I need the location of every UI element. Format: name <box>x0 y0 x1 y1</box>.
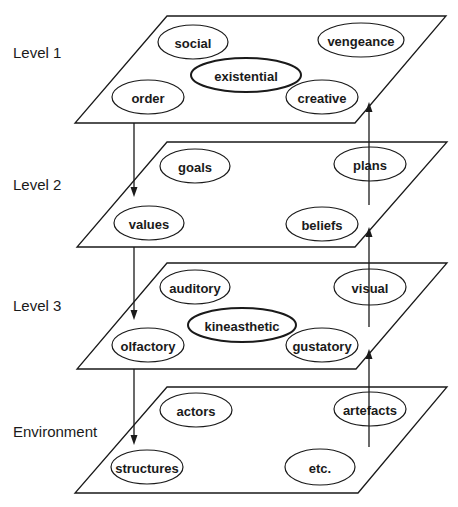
node-label: plans <box>353 158 387 173</box>
node-label: order <box>131 91 164 106</box>
node-label: actors <box>176 404 215 419</box>
node-social: social <box>158 25 228 59</box>
node-label: values <box>129 217 169 232</box>
node-label: goals <box>178 160 212 175</box>
node-existential: existential <box>191 58 301 92</box>
level-label: Level 2 <box>13 176 61 193</box>
node-label: auditory <box>169 281 221 296</box>
node-order: order <box>112 80 184 114</box>
node-label: etc. <box>309 461 331 476</box>
node-label: social <box>175 36 212 51</box>
node-plans: plans <box>334 147 406 181</box>
node-label: visual <box>352 281 389 296</box>
node-olfactory: olfactory <box>112 328 184 362</box>
node-structures: structures <box>111 450 183 484</box>
plane-level-2: goalsplansvaluesbeliefs <box>77 142 447 247</box>
plane-environment: actorsartefactsstructuresetc. <box>75 387 447 493</box>
node-label: artefacts <box>343 403 397 418</box>
node-creative: creative <box>286 80 358 114</box>
node-beliefs: beliefs <box>286 207 358 241</box>
planes-layer: socialvengeanceexistentialordercreativeg… <box>75 16 447 493</box>
node-kineasthetic: kineasthetic <box>188 308 296 342</box>
plane-level-3: auditoryvisualkineastheticolfactorygusta… <box>77 263 447 369</box>
node-visual: visual <box>334 269 406 305</box>
node-vengeance: vengeance <box>318 23 404 57</box>
node-gustatory: gustatory <box>286 328 358 362</box>
node-actors: actors <box>160 393 232 427</box>
level-hierarchy-diagram: socialvengeanceexistentialordercreativeg… <box>0 0 458 507</box>
node-label: structures <box>115 461 179 476</box>
node-etc: etc. <box>285 449 355 485</box>
node-goals: goals <box>160 149 230 183</box>
node-label: existential <box>214 69 278 84</box>
node-label: kineasthetic <box>204 319 279 334</box>
node-label: gustatory <box>292 339 352 354</box>
level-label: Level 3 <box>13 297 61 314</box>
level-label: Environment <box>13 423 98 440</box>
node-values: values <box>114 206 184 240</box>
node-label: creative <box>297 91 346 106</box>
node-label: olfactory <box>121 339 177 354</box>
plane-level-1: socialvengeanceexistentialordercreative <box>75 16 446 123</box>
node-label: beliefs <box>301 218 342 233</box>
node-label: vengeance <box>327 34 394 49</box>
node-auditory: auditory <box>160 270 230 304</box>
node-artefacts: artefacts <box>334 392 406 426</box>
level-label: Level 1 <box>13 44 61 61</box>
